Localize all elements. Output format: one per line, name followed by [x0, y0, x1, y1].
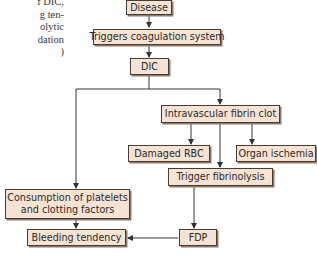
- node-fdp: FDP: [179, 229, 217, 246]
- node-triggers-coagulation: Triggers coagulation system: [93, 29, 221, 45]
- node-disease: Disease: [126, 0, 172, 15]
- node-label: and clotting factors: [21, 204, 114, 216]
- node-intravascular-clot: Intravascular fibrin clot: [161, 105, 280, 123]
- node-bleeding-tendency: Bleeding tendency: [27, 229, 126, 246]
- node-label: Trigger fibrinolysis: [177, 171, 265, 183]
- node-label: DIC: [141, 61, 158, 73]
- node-label: Bleeding tendency: [32, 232, 122, 244]
- node-trigger-fibrinolysis: Trigger fibrinolysis: [168, 168, 273, 186]
- node-dic: DIC: [130, 58, 169, 75]
- node-label: Consumption of platelets: [7, 192, 128, 204]
- node-label: Intravascular fibrin clot: [165, 108, 276, 120]
- node-label: Organ ischemia: [238, 148, 313, 160]
- node-damaged-rbc: Damaged RBC: [128, 145, 210, 162]
- node-label: Triggers coagulation system: [90, 31, 225, 43]
- node-organ-ischemia: Organ ischemia: [236, 145, 316, 162]
- node-label: FDP: [189, 232, 208, 244]
- node-label: Disease: [130, 2, 168, 14]
- node-consumption: Consumption of platelets and clotting fa…: [5, 189, 130, 219]
- node-label: Damaged RBC: [134, 148, 203, 160]
